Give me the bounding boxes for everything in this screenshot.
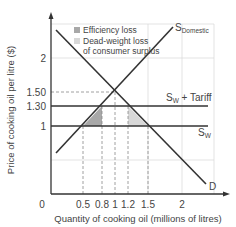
svg-text:1: 1	[112, 199, 118, 210]
svg-text:1.30: 1.30	[27, 101, 47, 112]
demand-label: D	[209, 181, 216, 192]
sw-tariff-label: SW + Tariff	[166, 92, 212, 104]
legend-label-efficiency: Efficiency loss	[83, 25, 137, 35]
legend-swatch-efficiency	[74, 27, 80, 33]
x-axis-arrow-icon	[223, 192, 230, 197]
svg-text:0: 0	[39, 199, 45, 210]
y-axis-title: Price of cooking oil per litre ($)	[5, 46, 16, 174]
y-tick-labels: 1 1.30 1.50 2	[27, 53, 47, 132]
svg-text:2: 2	[40, 53, 46, 64]
y-axis-arrow-icon	[49, 12, 54, 19]
legend-swatch-deadweight	[74, 38, 80, 44]
legend-label-deadweight-1: Dead-weight loss	[83, 36, 148, 46]
svg-text:0.5: 0.5	[76, 199, 90, 210]
x-axis-title: Quantity of cooking oil (millions of lit…	[54, 213, 221, 224]
svg-text:1.2: 1.2	[121, 199, 135, 210]
legend: Efficiency loss Dead-weight loss of cons…	[74, 25, 160, 56]
efficiency-loss-area	[83, 106, 102, 126]
x-tick-labels: 0 0.5 0.8 1 1.2 1.5 2	[39, 199, 185, 210]
svg-text:0.8: 0.8	[95, 199, 109, 210]
tariff-chart: Efficiency loss Dead-weight loss of cons…	[0, 0, 236, 227]
legend-label-deadweight-2: of consumer surplus	[83, 46, 160, 56]
svg-text:2: 2	[179, 199, 185, 210]
deadweight-loss-area	[128, 106, 148, 126]
sw-label: SW	[198, 127, 212, 139]
svg-text:1: 1	[40, 121, 46, 132]
svg-text:1.5: 1.5	[141, 199, 155, 210]
svg-text:1.50: 1.50	[27, 87, 47, 98]
